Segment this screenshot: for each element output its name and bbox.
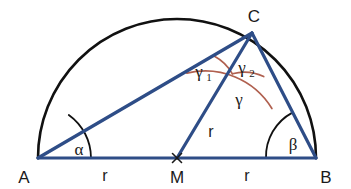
angle-label-gamma: γ bbox=[234, 90, 243, 109]
angle-arc-gamma2 bbox=[232, 72, 263, 76]
vertex-label-M: M bbox=[170, 168, 184, 187]
angle-label-gamma2-subscript: 2 bbox=[249, 67, 255, 79]
angle-label-beta: β bbox=[289, 135, 298, 154]
angle-label-gamma1-subscript: 1 bbox=[206, 71, 212, 83]
length-label-AM: r bbox=[102, 167, 108, 184]
angle-label-alpha: α bbox=[75, 140, 84, 159]
thales-circle-figure: A B C M r r r α β γ 1 γ 2 γ bbox=[0, 0, 351, 189]
angle-label-gamma1: γ bbox=[194, 62, 203, 81]
vertex-label-A: A bbox=[18, 168, 30, 187]
vertex-label-B: B bbox=[320, 168, 331, 187]
semicircle-arc bbox=[38, 19, 316, 158]
angle-label-gamma2-group: γ 2 bbox=[237, 58, 255, 79]
geometry-diagram: A B C M r r r α β γ 1 γ 2 γ bbox=[0, 0, 351, 189]
vertex-label-C: C bbox=[248, 7, 260, 26]
angle-label-gamma1-group: γ 1 bbox=[194, 62, 212, 83]
angle-label-gamma2: γ bbox=[237, 58, 246, 77]
length-label-MB: r bbox=[244, 167, 250, 184]
segment-AC bbox=[38, 33, 252, 158]
length-label-MC: r bbox=[208, 123, 214, 140]
